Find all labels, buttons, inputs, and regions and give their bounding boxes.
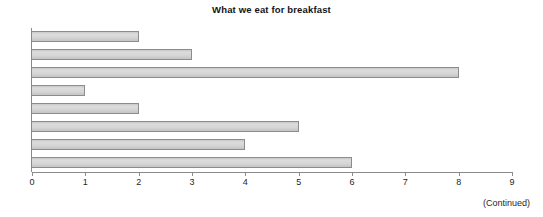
x-axis-tick-label: 1 [73, 177, 97, 187]
x-axis-tick [405, 172, 406, 176]
x-axis-tick-label: 7 [393, 177, 417, 187]
continued-note: (Continued) [483, 198, 530, 208]
bar [32, 85, 85, 96]
x-axis-tick [139, 172, 140, 176]
x-axis-tick [459, 172, 460, 176]
x-axis-tick [512, 172, 513, 176]
x-axis-tick-label: 2 [127, 177, 151, 187]
x-axis-tick-label: 9 [500, 177, 524, 187]
bar [32, 103, 139, 114]
x-axis-line [32, 172, 513, 173]
chart-title: What we eat for breakfast [0, 4, 543, 15]
x-axis-tick-label: 4 [233, 177, 257, 187]
x-axis-tick-label: 0 [20, 177, 44, 187]
bar [32, 139, 245, 150]
x-axis-tick [85, 172, 86, 176]
bar [32, 67, 459, 78]
bar [32, 49, 192, 60]
bar [32, 157, 352, 168]
x-axis-tick-label: 8 [447, 177, 471, 187]
x-axis-tick [192, 172, 193, 176]
x-axis-tick [32, 172, 33, 176]
x-axis-tick [299, 172, 300, 176]
x-axis-tick [352, 172, 353, 176]
x-axis-tick-label: 3 [180, 177, 204, 187]
x-axis-tick [245, 172, 246, 176]
bar [32, 121, 299, 132]
plot-area [32, 28, 512, 172]
bar [32, 31, 139, 42]
x-axis-tick-label: 6 [340, 177, 364, 187]
x-axis-tick-label: 5 [287, 177, 311, 187]
chart-figure: What we eat for breakfast 0123456789 (Co… [0, 0, 543, 217]
